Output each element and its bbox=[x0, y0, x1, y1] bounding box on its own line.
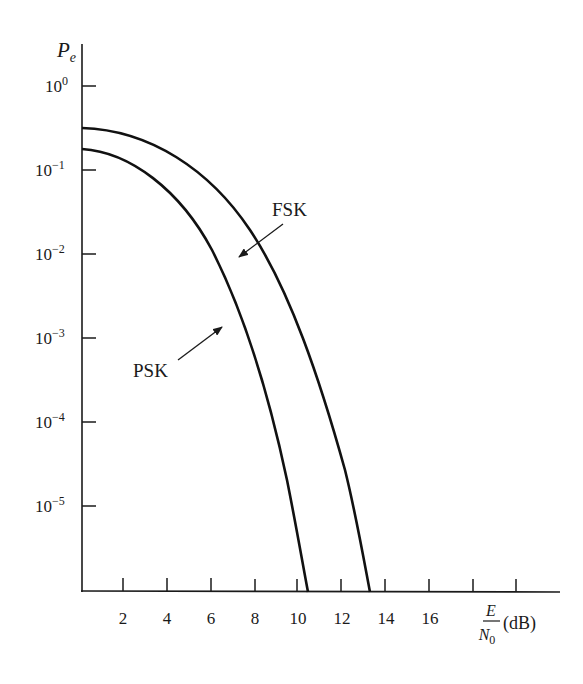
axes bbox=[81, 44, 560, 592]
x-axis-label: E N0 (dB) bbox=[478, 602, 536, 647]
svg-text:N0: N0 bbox=[478, 626, 496, 647]
svg-text:10−5: 10−5 bbox=[35, 494, 65, 516]
svg-text:10: 10 bbox=[290, 609, 307, 628]
svg-text:10−3: 10−3 bbox=[35, 326, 65, 348]
fsk-label: FSK bbox=[272, 199, 307, 220]
svg-text:14: 14 bbox=[378, 609, 396, 628]
psk-arrow bbox=[178, 327, 222, 360]
svg-text:10−1: 10−1 bbox=[35, 158, 65, 180]
svg-text:12: 12 bbox=[334, 609, 351, 628]
y-tick-labels: 100 10−1 10−2 10−3 10−4 10−5 bbox=[35, 74, 68, 516]
svg-text:100: 100 bbox=[45, 74, 68, 96]
svg-text:16: 16 bbox=[422, 609, 439, 628]
svg-text:E: E bbox=[485, 602, 496, 619]
x-ticks bbox=[123, 578, 516, 592]
x-tick-labels: 2 4 6 8 10 12 14 16 bbox=[119, 609, 439, 628]
svg-text:2: 2 bbox=[119, 609, 128, 628]
svg-text:10−4: 10−4 bbox=[35, 410, 65, 432]
fsk-arrow bbox=[239, 224, 283, 257]
y-axis-label: Pe bbox=[56, 38, 76, 65]
x-axis bbox=[81, 591, 560, 592]
chart: Pe 100 10−1 10−2 10−3 10−4 10−5 2 4 6 8 … bbox=[0, 0, 583, 684]
svg-text:6: 6 bbox=[207, 609, 216, 628]
svg-text:4: 4 bbox=[163, 609, 172, 628]
fsk-curve bbox=[82, 128, 370, 592]
svg-text:8: 8 bbox=[251, 609, 260, 628]
svg-text:10−2: 10−2 bbox=[35, 242, 65, 264]
psk-label: PSK bbox=[133, 360, 168, 381]
svg-text:(dB): (dB) bbox=[503, 613, 536, 634]
